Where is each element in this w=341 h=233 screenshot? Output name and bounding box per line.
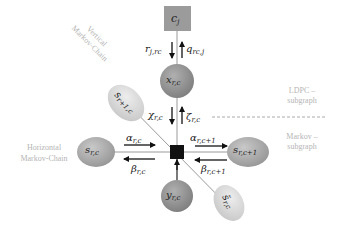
svg-text:subgraph: subgraph [287,142,316,151]
state-node-left: sr,c [77,137,115,167]
svg-text:Horizontal: Horizontal [27,143,62,152]
svg-text:qrc,j: qrc,j [186,43,205,56]
state-node-vertical-down: s̃r,c [207,180,250,227]
check-node: cj [164,6,191,31]
vertical-markov-chain-label: Vertical Markov-Chain [70,16,117,63]
horizontal-markov-chain-label: Horizontal Markov-Chain [20,143,67,163]
factor-graph-diagram: Vertical Markov-Chain Horizontal Markov-… [0,0,341,233]
state-node-right: sr,c+1 [227,137,269,167]
ldpc-subgraph-label: LDPC – subgraph [287,86,316,105]
svg-text:rj,rc: rj,rc [145,43,162,56]
svg-text:αr,c: αr,c [126,132,142,145]
observation-node: yr,c [161,180,193,212]
svg-text:ζr,c: ζr,c [186,111,200,124]
svg-text:Markov-Chain: Markov-Chain [20,154,67,163]
svg-text:subgraph: subgraph [287,96,316,105]
factor-node [170,145,184,159]
svg-text:βr,c: βr,c [130,163,146,176]
svg-text:χr,c: χr,c [147,109,163,122]
svg-text:βr,c+1: βr,c+1 [200,163,226,176]
svg-text:αr,c+1: αr,c+1 [190,132,216,145]
markov-subgraph-label: Markov – subgraph [286,132,318,151]
variable-node: xr,c [160,64,194,98]
svg-text:LDPC –: LDPC – [289,86,316,95]
svg-text:Markov –: Markov – [286,132,318,141]
